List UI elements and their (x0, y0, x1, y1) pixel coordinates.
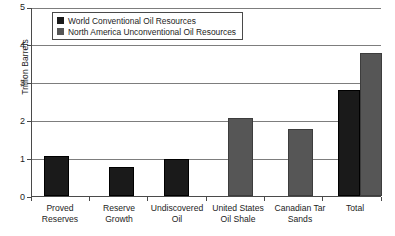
x-tick-mark-6 (381, 197, 382, 201)
x-axis-label-reserve-growth: Reserve Growth (88, 203, 150, 224)
x-axis-label-line2: Oil (144, 214, 210, 225)
gridline-1 (32, 159, 381, 160)
x-axis-label-canadian-tar-sands: Canadian Tar Sands (267, 203, 333, 224)
x-axis-label-line2: Reserves (28, 214, 92, 225)
x-axis-label-line1: United States (205, 203, 271, 214)
legend-label-conventional: World Conventional Oil Resources (68, 16, 196, 26)
bar-reserve-growth-conventional (109, 167, 134, 196)
gridline-4 (32, 45, 381, 46)
x-axis-label-line1: Proved (28, 203, 92, 214)
legend-entry-conventional: World Conventional Oil Resources (57, 15, 236, 26)
gridline-3 (32, 83, 381, 84)
y-tick-label-1: 1 (3, 155, 25, 164)
x-tick-mark-5 (322, 197, 323, 201)
gridline-5 (32, 8, 381, 9)
x-axis-label-line2: Oil Shale (205, 214, 271, 225)
bar-total-unconventional (360, 53, 382, 196)
bar-total-conventional (338, 90, 360, 196)
x-axis-label-line1: Undiscovered (144, 203, 210, 214)
x-axis-label-line2: Sands (267, 214, 333, 225)
x-axis-label-line2: Growth (88, 214, 150, 225)
x-tick-mark-0 (31, 197, 32, 201)
legend-entry-unconventional: North America Unconventional Oil Resourc… (57, 26, 236, 37)
bar-proved-reserves-conventional (44, 156, 69, 196)
gridline-2 (32, 121, 381, 122)
x-axis-label-line1: Total (330, 203, 380, 214)
bar-united-states-oil-shale-unconventional (228, 118, 253, 196)
y-tick-label-4: 4 (3, 41, 25, 50)
y-tick-label-2: 2 (3, 117, 25, 126)
x-tick-mark-3 (206, 197, 207, 201)
x-axis-label-line1: Canadian Tar (267, 203, 333, 214)
y-tick-label-3: 3 (3, 79, 25, 88)
x-tick-mark-2 (147, 197, 148, 201)
legend: World Conventional Oil Resources North A… (52, 12, 243, 40)
x-tick-mark-4 (264, 197, 265, 201)
x-axis-label-total: Total (330, 203, 380, 214)
x-axis-label-united-states-oil-shale: United States Oil Shale (205, 203, 271, 224)
x-axis-label-line1: Reserve (88, 203, 150, 214)
bar-canadian-tar-sands-unconventional (288, 129, 313, 196)
bar-undiscovered-oil-conventional (164, 159, 189, 196)
y-tick-label-0: 0 (3, 193, 25, 202)
x-tick-mark-1 (89, 197, 90, 201)
legend-swatch-icon-conventional (57, 17, 64, 24)
x-axis-label-undiscovered-oil: Undiscovered Oil (144, 203, 210, 224)
legend-swatch-icon-unconventional (57, 28, 64, 35)
legend-label-unconventional: North America Unconventional Oil Resourc… (68, 27, 236, 37)
y-axis-title: Trillion Barrels (20, 12, 30, 122)
bar-chart: Trillion Barrels 0 1 2 3 4 5 (0, 0, 395, 236)
x-axis-label-proved-reserves: Proved Reserves (28, 203, 92, 224)
y-tick-label-5: 5 (3, 3, 25, 12)
